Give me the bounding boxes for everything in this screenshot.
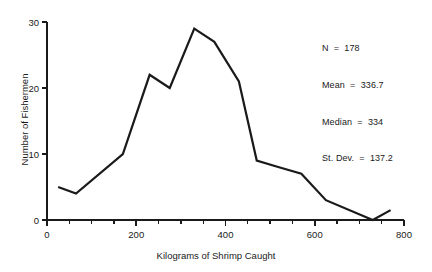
x-tick-label-600: 600 — [307, 229, 323, 240]
statistics-annotation: N = 178 Mean = 336.7 Median = 334 St. De… — [322, 18, 393, 177]
stat-median: Median = 334 — [322, 116, 393, 128]
x-axis-title: Kilograms of Shrimp Caught — [0, 250, 432, 261]
y-axis-title: Number of Fishermen — [19, 30, 30, 210]
y-tick-label-0: 0 — [9, 215, 39, 226]
y-tick-label-20: 20 — [9, 83, 39, 94]
stat-mean: Mean = 336.7 — [322, 79, 393, 91]
y-tick-label-10: 10 — [9, 149, 39, 160]
y-tick-label-30: 30 — [9, 17, 39, 28]
stat-stdev: St. Dev. = 137.2 — [322, 152, 393, 164]
x-tick-label-800: 800 — [396, 229, 412, 240]
x-tick-label-0: 0 — [44, 229, 49, 240]
stat-n: N = 178 — [322, 42, 393, 54]
x-tick-label-200: 200 — [128, 229, 144, 240]
x-tick-label-400: 400 — [218, 229, 234, 240]
